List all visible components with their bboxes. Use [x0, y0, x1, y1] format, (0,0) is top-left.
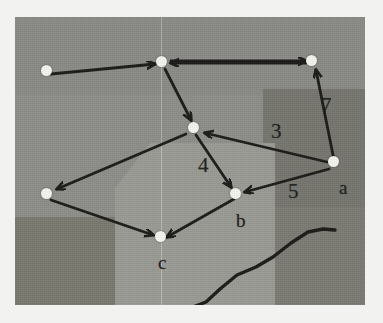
edge-weight-4: 4 [198, 155, 209, 176]
edge-n6-c [51, 200, 153, 235]
edge-n1-n2 [51, 64, 155, 74]
graph-node-b[interactable] [230, 188, 241, 199]
node-label-b: b [236, 211, 246, 230]
edge-a-n3 [316, 70, 335, 165]
node-label-a: a [339, 178, 347, 197]
edge-weight-3: 3 [271, 121, 282, 142]
graph-node[interactable] [41, 65, 52, 76]
edge-a-n4 [205, 133, 327, 162]
graph-node-a[interactable] [328, 156, 339, 167]
node-label-c: c [158, 253, 166, 272]
edge-weight-7: 7 [321, 95, 332, 116]
graph-node[interactable] [156, 56, 167, 67]
edge-a-b [245, 169, 329, 192]
graph-node[interactable] [188, 122, 199, 133]
photographed-drawing: a b c 7 3 4 5 [15, 17, 365, 305]
edge-n2-n4 [165, 69, 191, 120]
graph-node-c[interactable] [155, 231, 166, 242]
screenshot-root: a b c 7 3 4 5 [0, 0, 383, 323]
edge-b-c [167, 199, 234, 237]
edge-weight-5: 5 [288, 181, 299, 202]
edge-n4-n6 [57, 134, 186, 189]
graph-node[interactable] [306, 55, 317, 66]
hand-drawn-squiggle [193, 229, 335, 305]
graph-node[interactable] [41, 188, 52, 199]
